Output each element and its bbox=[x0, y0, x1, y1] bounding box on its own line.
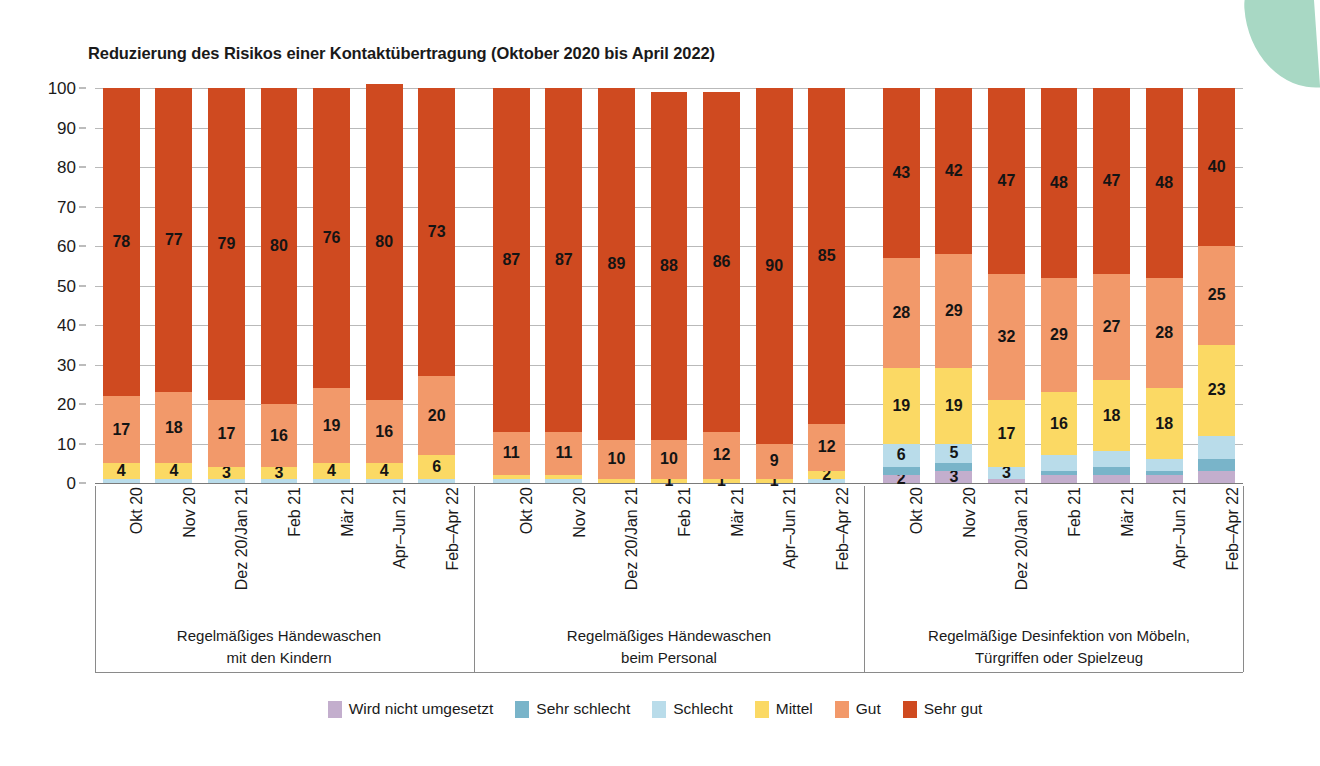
bar-value-label: 18 bbox=[165, 420, 183, 436]
bar-group-3: 2619284335192942317324716294818274718284… bbox=[875, 88, 1243, 483]
legend-item[interactable]: Schlecht bbox=[652, 700, 732, 718]
bar-segment bbox=[1146, 471, 1183, 475]
stacked-bar[interactable]: 11286 bbox=[703, 88, 740, 483]
legend-swatch bbox=[903, 701, 917, 718]
bar-value-label: 10 bbox=[660, 451, 678, 467]
bar-value-label: 78 bbox=[112, 234, 130, 250]
x-tick-label: Feb–Apr 22 bbox=[1224, 487, 1242, 571]
bar-segment: 47 bbox=[1093, 88, 1130, 274]
legend-label: Sehr gut bbox=[924, 700, 983, 718]
bar-segment: 47 bbox=[988, 88, 1025, 274]
bar-segment: 17 bbox=[208, 400, 245, 467]
y-tick-label-70: 70 bbox=[57, 198, 76, 215]
bar-value-label: 16 bbox=[1050, 416, 1068, 432]
stacked-bar[interactable]: 182747 bbox=[1093, 88, 1130, 483]
stacked-bar[interactable]: 3173247 bbox=[988, 88, 1025, 483]
stacked-bar[interactable]: 182848 bbox=[1146, 88, 1183, 483]
legend-label: Wird nicht umgesetzt bbox=[349, 700, 494, 718]
bar-value-label: 18 bbox=[1103, 408, 1121, 424]
x-tick-label: Nov 20 bbox=[181, 487, 199, 538]
bar-segment bbox=[1093, 475, 1130, 483]
bar-value-label: 4 bbox=[327, 463, 336, 479]
bar-segment: 87 bbox=[545, 88, 582, 432]
stacked-bar[interactable]: 35192942 bbox=[935, 88, 972, 483]
group-separator bbox=[864, 486, 865, 672]
group-caption-line2: beim Personal bbox=[485, 647, 853, 669]
bar-segment bbox=[493, 475, 530, 479]
bar-value-label: 3 bbox=[222, 465, 231, 481]
x-tick-label: Nov 20 bbox=[571, 487, 589, 538]
bar-segment bbox=[1146, 475, 1183, 483]
stacked-bar[interactable]: 31779 bbox=[208, 88, 245, 483]
bar-value-label: 80 bbox=[270, 238, 288, 254]
bar-value-label: 40 bbox=[1208, 159, 1226, 175]
bar-value-label: 9 bbox=[770, 453, 779, 469]
bar-segment: 19 bbox=[313, 388, 350, 463]
bar-segment: 25 bbox=[1198, 246, 1235, 345]
bar-segment: 3 bbox=[261, 467, 298, 479]
bar-segment: 3 bbox=[988, 467, 1025, 479]
bar-value-label: 12 bbox=[713, 447, 731, 463]
bar-value-label: 16 bbox=[375, 424, 393, 440]
bar-segment: 89 bbox=[598, 88, 635, 440]
y-tick-mark-20 bbox=[79, 404, 86, 405]
y-axis: 0102030405060708090100 bbox=[28, 88, 86, 483]
stacked-bar[interactable]: 26192843 bbox=[883, 88, 920, 483]
stacked-bar[interactable]: 1089 bbox=[598, 88, 635, 483]
bar-value-label: 27 bbox=[1103, 319, 1121, 335]
legend-item[interactable]: Sehr gut bbox=[903, 700, 983, 718]
x-axis-labels: Okt 20Nov 20Dez 20/Jan 21Feb 21Mär 21Apr… bbox=[95, 483, 1243, 613]
bar-segment bbox=[1041, 471, 1078, 475]
bar-segment bbox=[1093, 451, 1130, 467]
bar-segment: 85 bbox=[808, 88, 845, 424]
bar-segment: 18 bbox=[155, 392, 192, 463]
stacked-bar[interactable]: 41680 bbox=[366, 88, 403, 483]
stacked-bar[interactable]: 41877 bbox=[155, 88, 192, 483]
stacked-bar[interactable]: 1990 bbox=[756, 88, 793, 483]
bar-segment: 4 bbox=[366, 463, 403, 479]
stacked-bar[interactable]: 31680 bbox=[261, 88, 298, 483]
stacked-bar[interactable]: 162948 bbox=[1041, 88, 1078, 483]
stacked-bar[interactable]: 41778 bbox=[103, 88, 140, 483]
stacked-bar[interactable]: 232540 bbox=[1198, 88, 1235, 483]
bar-segment: 2 bbox=[883, 475, 920, 483]
x-tick-label: Feb–Apr 22 bbox=[444, 487, 462, 571]
legend-item[interactable]: Wird nicht umgesetzt bbox=[328, 700, 494, 718]
x-tick-label: Feb 21 bbox=[676, 487, 694, 537]
legend-item[interactable]: Gut bbox=[835, 700, 881, 718]
bar-value-label: 87 bbox=[502, 252, 520, 268]
y-tick-label-40: 40 bbox=[57, 317, 76, 334]
bar-value-label: 89 bbox=[608, 256, 626, 272]
bar-segment: 78 bbox=[103, 88, 140, 396]
stacked-bar[interactable]: 1187 bbox=[545, 88, 582, 483]
bar-value-label: 4 bbox=[169, 463, 178, 479]
bar-segment: 5 bbox=[935, 444, 972, 464]
y-tick-label-50: 50 bbox=[57, 277, 76, 294]
y-tick-mark-70 bbox=[79, 206, 86, 207]
bar-segment: 29 bbox=[1041, 278, 1078, 393]
bar-value-label: 17 bbox=[998, 426, 1016, 442]
bar-value-label: 3 bbox=[275, 465, 284, 481]
stacked-bar[interactable]: 41976 bbox=[313, 88, 350, 483]
stacked-bar[interactable]: 21285 bbox=[808, 88, 845, 483]
bar-segment: 2 bbox=[808, 471, 845, 479]
bar-value-label: 80 bbox=[375, 234, 393, 250]
bar-segment bbox=[1198, 459, 1235, 471]
y-tick-mark-80 bbox=[79, 167, 86, 168]
group-caption-line1: Regelmäßiges Händewaschen bbox=[485, 625, 853, 647]
bar-segment: 10 bbox=[598, 440, 635, 480]
x-tick-label: Okt 20 bbox=[128, 487, 146, 534]
bar-value-label: 42 bbox=[945, 163, 963, 179]
legend-item[interactable]: Sehr schlecht bbox=[515, 700, 630, 718]
legend-swatch bbox=[652, 701, 666, 718]
stacked-bar[interactable]: 1187 bbox=[493, 88, 530, 483]
stacked-bar[interactable]: 11088 bbox=[651, 88, 688, 483]
y-tick-label-20: 20 bbox=[57, 396, 76, 413]
bar-segment: 4 bbox=[313, 463, 350, 479]
bar-value-label: 10 bbox=[608, 451, 626, 467]
group-caption: Regelmäßige Desinfektion von Möbeln,Türg… bbox=[875, 625, 1243, 669]
bar-value-label: 28 bbox=[1155, 325, 1173, 341]
bar-segment: 16 bbox=[261, 404, 298, 467]
stacked-bar[interactable]: 62073 bbox=[418, 88, 455, 483]
legend-item[interactable]: Mittel bbox=[755, 700, 813, 718]
